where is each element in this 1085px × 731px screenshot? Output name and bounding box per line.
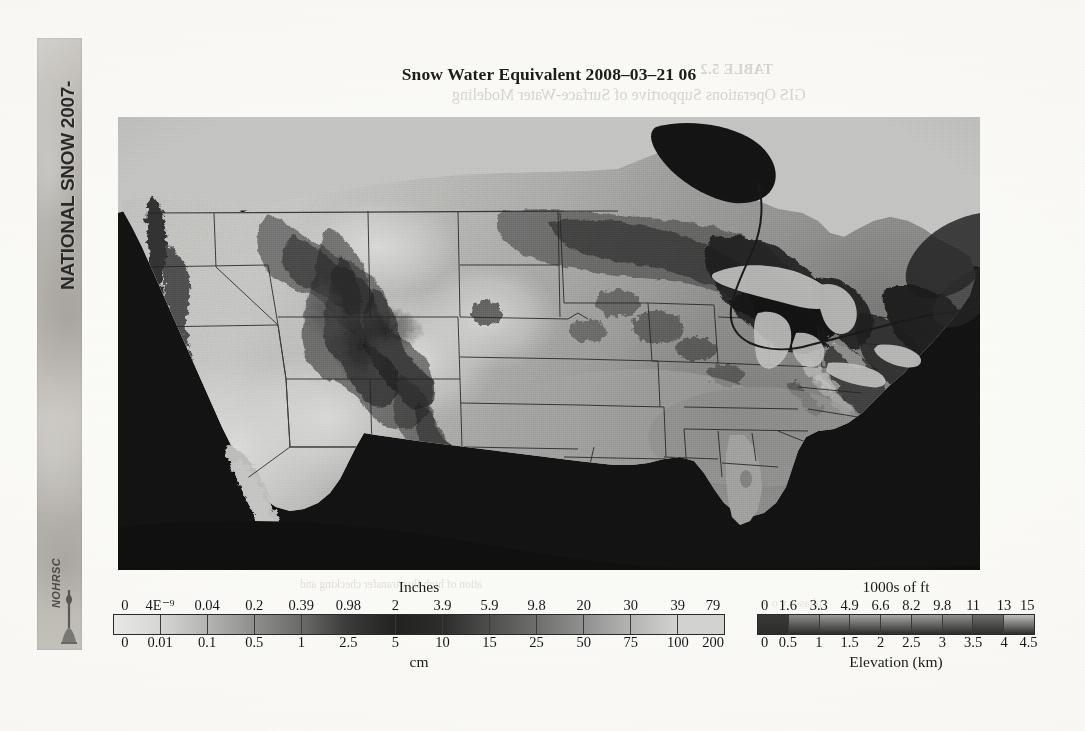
colorbar-segment — [943, 615, 974, 634]
colorbar-segment — [255, 615, 302, 634]
snow-water-equivalent-map — [118, 117, 980, 570]
elevation-legend-heading: 1000s of ft — [757, 578, 1035, 596]
colorbar-tick-label: 1 — [278, 635, 325, 651]
colorbar-tick-label: 0.1 — [184, 635, 231, 651]
colorbar-segment — [537, 615, 584, 634]
colorbar-tick-label: 3.3 — [803, 598, 834, 614]
colorbar-tick-label: 0.01 — [137, 635, 184, 651]
colorbar-tick-label: 0 — [113, 598, 137, 614]
colorbar-tick-label: 4.9 — [834, 598, 865, 614]
page-title: Snow Water Equivalent 2008–03–21 06 — [118, 64, 980, 85]
colorbar-tick-label: 30 — [607, 598, 654, 614]
colorbar-tick-label: 13 — [989, 598, 1020, 614]
colorbar-tick-label: 9.8 — [513, 598, 560, 614]
colorbar-tick-label: 15 — [466, 635, 513, 651]
colorbar-segment — [114, 615, 161, 634]
colorbar-segment — [789, 615, 820, 634]
colorbar-segment — [349, 615, 396, 634]
swe-legend-ticks-inches: 04E⁻⁹0.040.20.390.9823.95.99.820303979 — [113, 598, 725, 614]
swe-legend-heading: Inches — [113, 578, 725, 596]
nohrsc-logo-mark — [60, 588, 78, 644]
colorbar-tick-label: 11 — [958, 598, 989, 614]
colorbar-tick-label: 3.9 — [419, 598, 466, 614]
spine-title-line-2: ANALYSIS 2008 — [78, 152, 82, 290]
elevation-colorbar — [757, 614, 1035, 635]
colorbar-tick-label: 2.5 — [325, 635, 372, 651]
colorbar-tick-label: 10 — [419, 635, 466, 651]
colorbar-tick-label: 1 — [803, 635, 834, 651]
colorbar-tick-label: 3.5 — [958, 635, 989, 651]
colorbar-segment — [161, 615, 208, 634]
colorbar-segment — [912, 615, 943, 634]
nohrsc-logo: NOHRSC — [38, 542, 81, 646]
colorbar-segment — [850, 615, 881, 634]
spine-title-line-1: NATIONAL SNOW 2007- — [57, 81, 79, 290]
colorbar-tick-label: 39 — [654, 598, 701, 614]
colorbar-tick-label: 0.5 — [231, 635, 278, 651]
elevation-legend-footing: Elevation (km) — [757, 653, 1035, 671]
colorbar-tick-label: 9.8 — [927, 598, 958, 614]
colorbar-tick-label: 4E⁻⁹ — [137, 598, 184, 614]
colorbar-segment — [820, 615, 851, 634]
colorbar-segment — [973, 615, 1004, 634]
swe-legend-ticks-cm: 00.010.10.512.551015255075100200 — [113, 635, 725, 651]
colorbar-segment — [584, 615, 631, 634]
colorbar-tick-label: 1.5 — [834, 635, 865, 651]
colorbar-segment — [443, 615, 490, 634]
elevation-legend: 1000s of ft 01.63.34.96.68.29.8111315 00… — [757, 578, 1035, 671]
colorbar-tick-label: 0.2 — [231, 598, 278, 614]
colorbar-segment — [490, 615, 537, 634]
colorbar-tick-label: 0 — [757, 635, 772, 651]
colorbar-tick-label: 2 — [865, 635, 896, 651]
map-canvas — [118, 117, 980, 570]
colorbar-tick-label: 0.98 — [325, 598, 372, 614]
colorbar-tick-label: 15 — [1019, 598, 1034, 614]
colorbar-tick-label: 4 — [989, 635, 1020, 651]
colorbar-segment — [758, 615, 789, 634]
colorbar-segment — [1004, 615, 1034, 634]
colorbar-tick-label: 0 — [113, 635, 137, 651]
colorbar-tick-label: 3 — [927, 635, 958, 651]
national-snow-analysis-spine-banner: NATIONAL SNOW 2007- ANALYSIS 2008 NOHRSC — [37, 38, 82, 650]
colorbar-tick-label: 200 — [701, 635, 725, 651]
colorbar-segment — [208, 615, 255, 634]
colorbar-tick-label: 100 — [654, 635, 701, 651]
colorbar-tick-label: 4.5 — [1019, 635, 1034, 651]
elevation-legend-ticks-km: 00.511.522.533.544.5 — [757, 635, 1035, 651]
colorbar-segment — [881, 615, 912, 634]
colorbar-tick-label: 0 — [757, 598, 772, 614]
colorbar-tick-label: 20 — [560, 598, 607, 614]
colorbar-tick-label: 0.5 — [772, 635, 803, 651]
swe-colorbar — [113, 614, 725, 635]
swe-legend-footing: cm — [113, 653, 725, 671]
colorbar-tick-label: 0.04 — [184, 598, 231, 614]
colorbar-tick-label: 1.6 — [772, 598, 803, 614]
colorbar-tick-label: 5.9 — [466, 598, 513, 614]
colorbar-tick-label: 0.39 — [278, 598, 325, 614]
colorbar-segment — [396, 615, 443, 634]
colorbar-tick-label: 8.2 — [896, 598, 927, 614]
colorbar-tick-label: 50 — [560, 635, 607, 651]
colorbar-tick-label: 2.5 — [896, 635, 927, 651]
colorbar-tick-label: 6.6 — [865, 598, 896, 614]
colorbar-tick-label: 2 — [372, 598, 419, 614]
colorbar-segment — [678, 615, 724, 634]
elevation-legend-ticks-feet: 01.63.34.96.68.29.8111315 — [757, 598, 1035, 614]
colorbar-segment — [302, 615, 349, 634]
colorbar-tick-label: 79 — [701, 598, 725, 614]
colorbar-segment — [631, 615, 678, 634]
colorbar-tick-label: 75 — [607, 635, 654, 651]
swe-legend: Inches 04E⁻⁹0.040.20.390.9823.95.99.8203… — [113, 578, 725, 671]
colorbar-tick-label: 25 — [513, 635, 560, 651]
colorbar-tick-label: 5 — [372, 635, 419, 651]
